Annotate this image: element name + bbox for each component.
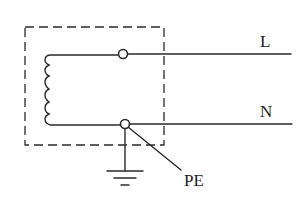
terminal-N-icon xyxy=(121,120,130,129)
label-PE: PE xyxy=(184,171,204,190)
label-N: N xyxy=(260,102,272,121)
label-L: L xyxy=(260,32,270,51)
ground-symbol-icon xyxy=(107,128,143,185)
pe-leader-line xyxy=(128,127,181,170)
circuit-diagram: L N PE xyxy=(0,0,305,223)
terminal-L-icon xyxy=(119,50,128,59)
coil-winding-icon xyxy=(45,55,123,125)
